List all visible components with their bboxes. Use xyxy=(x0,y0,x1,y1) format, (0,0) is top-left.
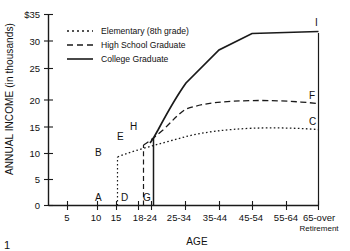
x-tick-label-15: 15 xyxy=(111,212,122,223)
legend-label-college: College Graduate xyxy=(101,54,169,64)
legend: Elementary (8th grade) High School Gradu… xyxy=(67,26,189,64)
x-tick-label-5: 5 xyxy=(64,212,69,223)
x-tick-label-25-34: 25-34 xyxy=(167,212,191,223)
point-label-b: B xyxy=(95,147,102,158)
legend-label-elementary: Elementary (8th grade) xyxy=(101,26,189,36)
x-tick-label-35-44: 35-44 xyxy=(203,212,227,223)
point-label-c: C xyxy=(309,116,316,127)
point-label-d: D xyxy=(121,192,128,203)
footer-mark: 1 xyxy=(4,239,10,251)
x-axis-title: AGE xyxy=(186,236,208,247)
point-label-e: E xyxy=(117,131,124,142)
point-label-f: F xyxy=(309,90,315,101)
y-tick-label-35: $35 xyxy=(24,9,40,20)
y-tick-label-10: 10 xyxy=(29,148,40,159)
y-tick-label-25: 25 xyxy=(29,63,40,74)
point-label-g: G xyxy=(143,192,151,203)
point-label-h: H xyxy=(130,121,137,132)
chart-svg: $35 30 25 20 15 10 5 0 ANNUAL INCOME (in… xyxy=(0,0,350,251)
x-tick-sublabel-retirement: Retirement xyxy=(299,224,339,233)
y-tick-label-0: 0 xyxy=(35,200,40,211)
y-tick-label-30: 30 xyxy=(29,36,40,47)
x-tick-label-18-24: 18-24 xyxy=(133,212,157,223)
y-tick-label-5: 5 xyxy=(35,174,40,185)
x-tick-label-65-over: 65-over xyxy=(303,212,335,223)
x-tick-label-55-64: 55-64 xyxy=(274,212,298,223)
x-tick-label-45-54: 45-54 xyxy=(239,212,263,223)
x-tick-label-10: 10 xyxy=(91,212,102,223)
y-axis-title: ANNUAL INCOME (in thousands) xyxy=(4,23,15,175)
point-label-a: A xyxy=(95,192,102,203)
y-tick-label-15: 15 xyxy=(29,122,40,133)
legend-label-highschool: High School Graduate xyxy=(101,40,186,50)
y-tick-label-20: 20 xyxy=(29,95,40,106)
income-by-education-chart: $35 30 25 20 15 10 5 0 ANNUAL INCOME (in… xyxy=(0,0,350,251)
point-label-i: I xyxy=(315,17,318,28)
